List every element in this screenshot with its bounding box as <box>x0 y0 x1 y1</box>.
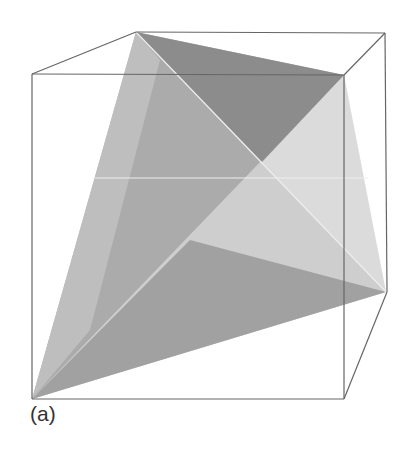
cube-tetrahedron-diagram <box>0 0 413 467</box>
figure-label: (a) <box>30 402 56 426</box>
